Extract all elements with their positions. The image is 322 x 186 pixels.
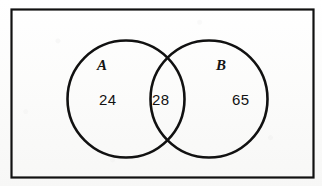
venn-diagram-svg: [0, 0, 322, 186]
set-b-circle: [151, 41, 268, 158]
venn-diagram-figure: A B 24 28 65: [0, 0, 322, 186]
